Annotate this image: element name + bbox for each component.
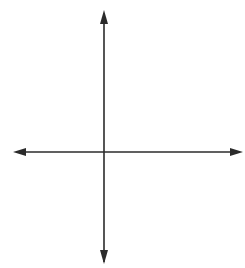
y-axis-up-arrow-icon	[100, 10, 108, 24]
x-axis-right-arrow-icon	[230, 148, 243, 156]
coordinate-plane	[0, 0, 245, 268]
x-axis-left-arrow-icon	[13, 148, 26, 156]
axes	[13, 10, 243, 264]
y-axis-down-arrow-icon	[100, 250, 108, 264]
